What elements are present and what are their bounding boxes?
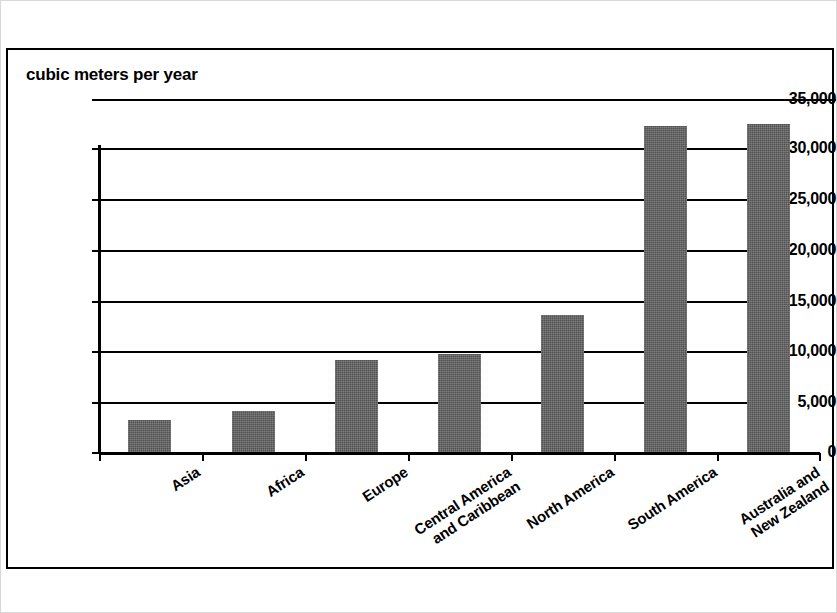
x-tick-6 [717, 453, 719, 461]
bar-europe[interactable] [335, 360, 378, 452]
y-tick-35000 [92, 99, 101, 101]
plot-area: 35,000 30,000 25,000 20,000 15,000 10,00… [8, 50, 836, 571]
bar-asia[interactable] [128, 420, 171, 452]
x-tick-2 [305, 453, 307, 461]
y-tick-label-35000: 35,000 [758, 90, 836, 108]
x-tick-3 [408, 453, 410, 461]
x-tick-1 [202, 453, 204, 461]
x-label-asia: Asia [38, 464, 203, 579]
x-axis-line [99, 452, 820, 455]
chart-figure-box: cubic meters per year 35,000 30,000 25,0… [6, 48, 834, 569]
x-tick-4 [511, 453, 513, 461]
x-tick-5 [614, 453, 616, 461]
y-axis-line [98, 145, 101, 454]
x-tick-0 [99, 453, 101, 461]
bar-africa[interactable] [232, 411, 275, 452]
bar-australia-and-new-zealand[interactable] [747, 124, 790, 452]
x-tick-7 [819, 453, 821, 461]
bar-central-america-and-caribbean[interactable] [438, 354, 481, 452]
x-label-asia-line1: Asia [38, 464, 203, 579]
page-frame: cubic meters per year 35,000 30,000 25,0… [0, 0, 837, 613]
bar-south-america[interactable] [644, 126, 687, 452]
bar-north-america[interactable] [541, 315, 584, 452]
gridline-35000 [99, 99, 836, 101]
